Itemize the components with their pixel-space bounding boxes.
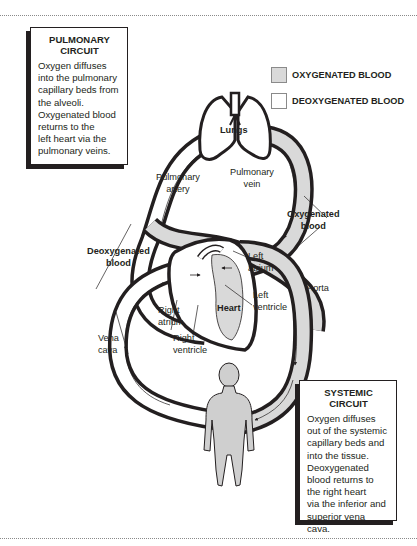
label-aorta: Aorta [307, 283, 329, 295]
label-deoxygenated-blood: Deoxygenatedblood [87, 246, 150, 269]
systemic-circuit-callout: SYSTEMICCIRCUIT Oxygen diffuses out of t… [299, 380, 397, 521]
label-heart: Heart [217, 303, 241, 315]
label-pulmonary-vein: Pulmonaryvein [230, 167, 274, 190]
label-left-ventricle: Leftventricle [253, 290, 287, 313]
label-right-atrium: Rightatrium [158, 305, 184, 328]
pulmonary-circuit-text: Oxygen diffuses into the pulmonary capil… [38, 60, 121, 158]
systemic-circuit-title: SYSTEMICCIRCUIT [307, 387, 390, 409]
pulmonary-circuit-callout: PULMONARYCIRCUIT Oxygen diffuses into th… [30, 27, 128, 165]
pulmonary-circuit-title: PULMONARYCIRCUIT [38, 34, 121, 56]
label-vena-cava: Venacava [98, 333, 119, 356]
oxygenated-swatch [271, 67, 287, 83]
label-lungs: Lungs [220, 125, 248, 137]
human-body-figure [204, 363, 254, 486]
legend-oxygenated: OXYGENATED BLOOD [271, 67, 391, 83]
legend-deoxygenated: DEOXYGENATED BLOOD [271, 93, 404, 109]
label-right-ventricle: Rightventricle [173, 333, 207, 356]
deoxygenated-swatch [271, 93, 287, 109]
systemic-circuit-text: Oxygen diffuses out of the systemic capi… [307, 413, 390, 535]
label-left-atrium: Leftatrium [248, 251, 274, 274]
label-oxygenated-blood: Oxygenatedblood [287, 209, 340, 232]
label-pulmonary-artery: Pulmonaryartery [156, 172, 200, 195]
